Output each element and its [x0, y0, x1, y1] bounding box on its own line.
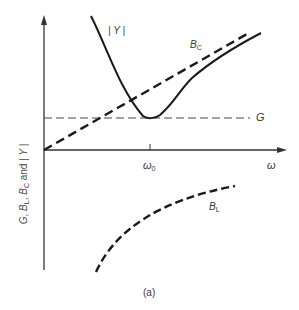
y-label-and: and: [18, 161, 29, 183]
omega0-label: ω0: [143, 160, 155, 172]
y-label-sep1: ,: [18, 211, 29, 217]
bc-label: BC: [190, 40, 202, 51]
y-label-g: G: [18, 216, 29, 224]
omega0-main: ω: [143, 159, 152, 171]
bc-label-main: B: [190, 39, 197, 50]
y-label-ymag: | Y |: [18, 144, 29, 161]
y-label-bl-sub: L: [23, 200, 30, 204]
admittance-diagram: [0, 0, 299, 310]
bl-label: BL: [209, 202, 220, 213]
y-label-bc-sub: C: [23, 183, 30, 188]
x-axis-label: ω: [267, 160, 276, 171]
omega0-sub: 0: [152, 165, 156, 172]
bc-label-sub: C: [197, 44, 202, 51]
x-axis-arrow-icon: [277, 147, 287, 153]
bc-curve: [44, 34, 247, 150]
bl-curve: [96, 186, 235, 272]
y-axis-label: G, BL, BC and | Y |: [18, 114, 30, 254]
figure-caption: (a): [143, 288, 155, 298]
bl-label-main: B: [209, 201, 216, 212]
y-magnitude-label: | Y |: [108, 26, 125, 36]
y-axis-arrow-icon: [41, 15, 47, 25]
g-label: G: [256, 112, 265, 123]
y-label-sep2: ,: [18, 195, 29, 201]
y-label-bc: B: [18, 188, 29, 195]
bl-label-sub: L: [216, 206, 220, 213]
y-label-bl: B: [18, 204, 29, 211]
